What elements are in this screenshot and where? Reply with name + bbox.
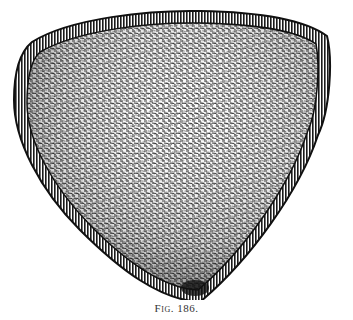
figure-caption-label: Fig. 186.: [155, 302, 199, 314]
figure-caption: Fig. 186.: [0, 302, 353, 314]
specimen-outline: [14, 11, 330, 300]
figure-illustration: [0, 0, 353, 300]
